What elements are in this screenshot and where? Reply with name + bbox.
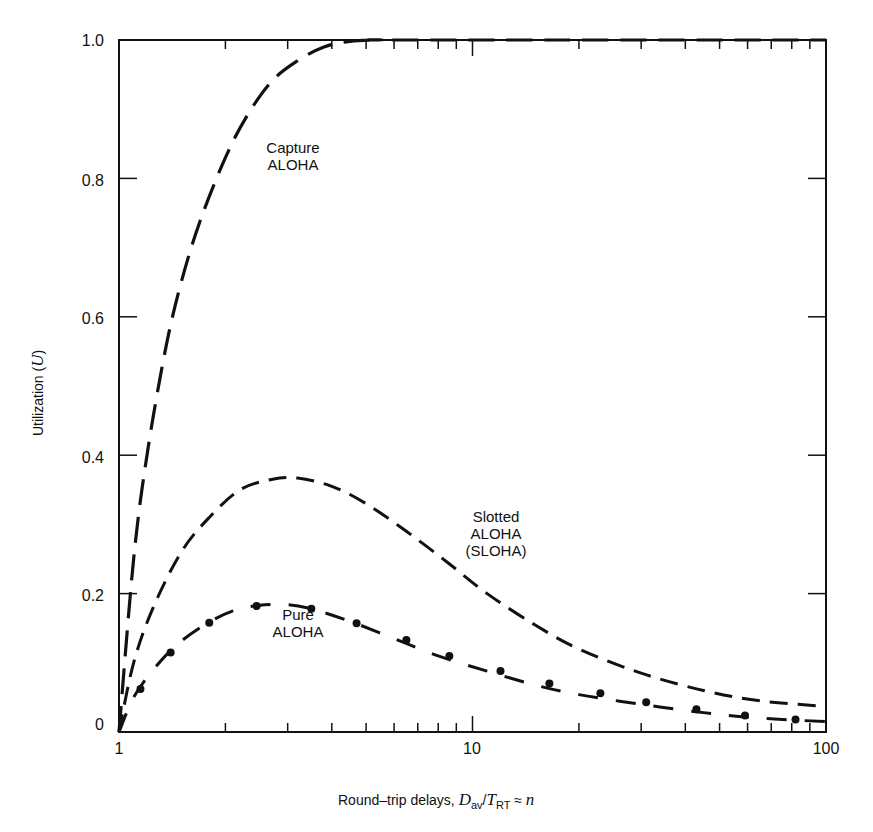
x-axis-var-d: D [459,790,471,809]
capture-aloha-label-line1: Capture [258,139,328,156]
x-tick-1: 1 [99,740,139,758]
x-axis-var-t: T [486,790,495,809]
y-axis-title: Utilization (U) [28,350,48,436]
pure-aloha-marker [205,619,213,627]
y-tick-0: 0 [64,716,104,734]
y-tick-0.2: 0.2 [64,587,104,605]
slotted-aloha-label-line3: (SLOHA) [456,542,536,559]
chart-canvas [0,0,873,832]
x-axis-title: Round–trip delays, Dav/TRT ≈ n [338,790,534,811]
pure-aloha-marker [792,716,800,724]
capture-aloha-label-line2: ALOHA [258,156,328,173]
y-axis-title-var: U [28,355,47,367]
capture-aloha-curve [119,40,826,732]
pure-aloha-marker [496,667,504,675]
y-tick-0.6: 0.6 [64,310,104,328]
pure-aloha-marker [167,648,175,656]
x-axis-approx: ≈ [510,792,525,808]
x-tick-100: 100 [806,740,846,758]
pure-aloha-marker [353,619,361,627]
pure-aloha-marker [545,680,553,688]
slotted-aloha-label-line2: ALOHA [456,525,536,542]
x-axis-var-n: n [526,790,535,809]
pure-aloha-marker [402,636,410,644]
pure-aloha-marker [136,685,144,693]
pure-aloha-label: Pure ALOHA [263,606,333,640]
pure-aloha-marker [741,711,749,719]
y-tick-0.4: 0.4 [64,449,104,467]
y-axis-title-close: ) [30,350,46,355]
pure-aloha-label-line1: Pure [263,606,333,623]
pure-aloha-marker [642,698,650,706]
capture-aloha-label: Capture ALOHA [258,139,328,173]
plot-frame [119,40,826,732]
x-axis-sub-rt: RT [496,799,510,811]
x-axis-sub-av: av [471,799,483,811]
y-axis-title-text: Utilization ( [30,367,46,436]
pure-aloha-marker [445,652,453,660]
pure-aloha-marker [253,602,261,610]
slotted-aloha-label: Slotted ALOHA (SLOHA) [456,508,536,559]
y-tick-1.0: 1.0 [64,32,104,50]
pure-aloha-marker [596,689,604,697]
x-axis-title-text: Round–trip delays, [338,792,459,808]
pure-aloha-label-line2: ALOHA [263,623,333,640]
y-tick-0.8: 0.8 [64,172,104,190]
pure-aloha-curve [119,604,826,732]
slotted-aloha-label-line1: Slotted [456,508,536,525]
pure-aloha-marker [692,705,700,713]
x-tick-10: 10 [452,740,492,758]
